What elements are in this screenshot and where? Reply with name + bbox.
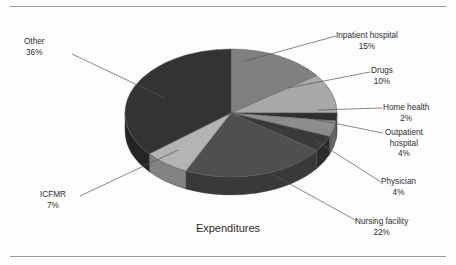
slice-label-home-health-value: 2% — [383, 114, 429, 125]
slice-label-home-health-name: Home health — [383, 103, 429, 112]
slice-label-icfmr-value: 7% — [40, 201, 66, 212]
slice-label-drugs: Drugs 10% — [371, 66, 393, 87]
slice-label-physician-name: Physician — [381, 177, 416, 186]
slice-label-inpatient-hospital-value: 15% — [336, 42, 398, 53]
slice-label-other-value: 36% — [24, 48, 44, 59]
slice-label-outpatient-hospital-value: 4% — [385, 149, 423, 160]
slice-label-other-name: Other — [24, 37, 44, 46]
slice-label-icfmr-name: ICFMR — [40, 190, 66, 199]
slice-label-other: Other 36% — [24, 37, 44, 58]
slice-label-drugs-value: 10% — [371, 77, 393, 88]
pie-slices-group: Inpatient hospital 15%Drugs 10%Home heal… — [125, 49, 337, 195]
chart-title: Expenditures — [0, 222, 456, 234]
chart-figure: Inpatient hospital 15%Drugs 10%Home heal… — [0, 0, 456, 265]
slice-label-outpatient-hospital-name2: hospital — [385, 139, 423, 150]
slice-label-physician-value: 4% — [381, 188, 416, 199]
slice-label-icfmr: ICFMR 7% — [40, 190, 66, 211]
slice-label-outpatient-hospital-name: Outpatient — [385, 128, 423, 137]
slice-label-drugs-name: Drugs — [371, 66, 393, 75]
leader-line-inpatient — [245, 36, 336, 61]
slice-label-inpatient-hospital-name: Inpatient hospital — [336, 31, 398, 40]
slice-label-home-health: Home health 2% — [383, 103, 429, 124]
slice-label-inpatient-hospital: Inpatient hospital 15% — [336, 31, 398, 52]
slice-label-physician: Physician 4% — [381, 177, 416, 198]
slice-label-outpatient-hospital: Outpatient hospital 4% — [385, 128, 423, 160]
